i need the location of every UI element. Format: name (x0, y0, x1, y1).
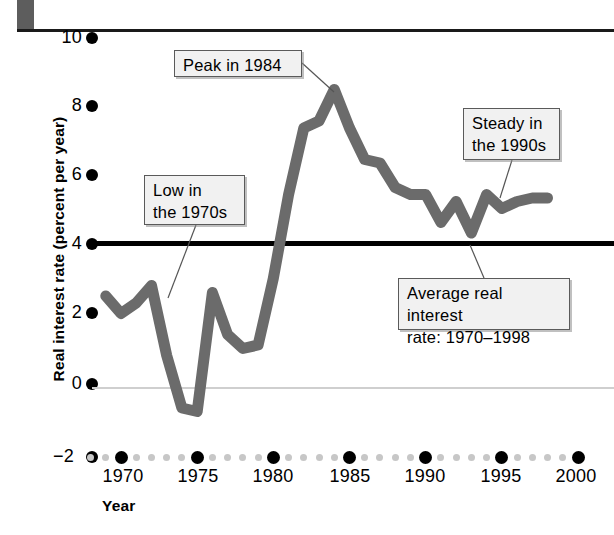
real-interest-rate-chart: Real interest rate (percent per year) Ye… (0, 0, 614, 535)
leader-line-average (470, 245, 484, 278)
x-axis-minor-dot (544, 454, 551, 461)
leader-line-low (168, 225, 196, 298)
y-tick-dot-6 (86, 169, 98, 181)
x-axis-label: Year (102, 497, 136, 515)
x-axis-minor-dot (529, 454, 536, 461)
x-axis-minor-dot (148, 454, 155, 461)
x-axis-minor-dot (559, 454, 566, 461)
zero-reference-line (92, 387, 614, 389)
x-axis-minor-dot (437, 454, 444, 461)
y-tick-label-0: 0 (36, 373, 82, 394)
x-axis-minor-dot (239, 454, 246, 461)
leader-line-peak (302, 63, 334, 92)
y-tick-label-8: 8 (36, 95, 82, 116)
y-tick-label-minus2: −2 (28, 446, 74, 467)
corner-mark (17, 0, 34, 30)
x-tick-label-1995: 1995 (466, 466, 536, 487)
top-border-rule (17, 29, 614, 32)
x-tick-label-1975: 1975 (163, 466, 233, 487)
x-axis-major-dot (419, 451, 432, 464)
leader-line-steady (500, 160, 512, 198)
x-axis-minor-dot (178, 454, 185, 461)
callout-low: Low in the 1970s (144, 175, 245, 225)
y-tick-label-2: 2 (36, 302, 82, 323)
x-axis-minor-dot (209, 454, 216, 461)
y-tick-label-6: 6 (36, 164, 82, 185)
callout-average: Average real interest rate: 1970–1998 (398, 278, 570, 330)
x-axis-minor-dot (407, 454, 414, 461)
callout-steady: Steady in the 1990s (463, 108, 560, 160)
x-axis-major-dot (572, 451, 585, 464)
x-axis-minor-dot (87, 454, 94, 461)
x-tick-label-2000: 2000 (541, 466, 611, 487)
x-axis-minor-dot (102, 454, 109, 461)
x-axis-major-dot (115, 451, 128, 464)
y-tick-dot-10 (86, 32, 98, 44)
x-tick-label-1990: 1990 (390, 466, 460, 487)
x-axis-minor-dot (300, 454, 307, 461)
x-axis-major-dot (343, 451, 356, 464)
x-axis-minor-dot (361, 454, 368, 461)
average-reference-line (90, 241, 614, 246)
x-axis-minor-dot (133, 454, 140, 461)
y-tick-dot-2 (86, 307, 98, 319)
x-axis-minor-dot (163, 454, 170, 461)
x-axis-minor-dot (224, 454, 231, 461)
x-tick-label-1970: 1970 (88, 466, 158, 487)
x-axis-minor-dot (331, 454, 338, 461)
x-axis-minor-dot (483, 454, 490, 461)
x-axis-minor-dot (468, 454, 475, 461)
x-axis-major-dot (495, 451, 508, 464)
x-axis-minor-dot (514, 454, 521, 461)
x-axis-minor-dot (376, 454, 383, 461)
x-tick-label-1985: 1985 (315, 466, 385, 487)
x-axis-minor-dot (453, 454, 460, 461)
x-tick-label-1980: 1980 (238, 466, 308, 487)
y-tick-label-10: 10 (36, 27, 82, 48)
x-axis-major-dot (267, 451, 280, 464)
y-tick-dot-8 (86, 100, 98, 112)
x-axis-minor-dot (255, 454, 262, 461)
y-tick-label-4: 4 (36, 233, 82, 254)
x-axis-minor-dot (316, 454, 323, 461)
x-axis-major-dot (191, 451, 204, 464)
x-axis-minor-dot (392, 454, 399, 461)
x-axis-minor-dot (285, 454, 292, 461)
callout-peak: Peak in 1984 (174, 50, 302, 77)
